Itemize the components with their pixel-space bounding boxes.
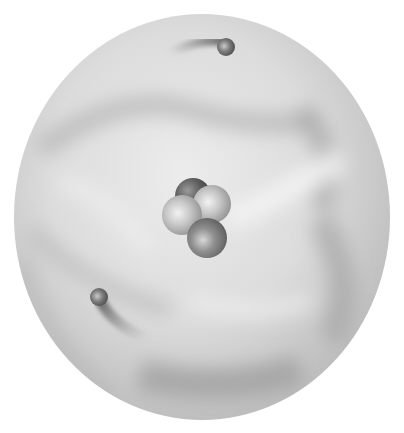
atom-illustration: [0, 0, 404, 433]
atom-diagram: [0, 0, 404, 433]
nucleus-particle-front: [187, 218, 227, 258]
